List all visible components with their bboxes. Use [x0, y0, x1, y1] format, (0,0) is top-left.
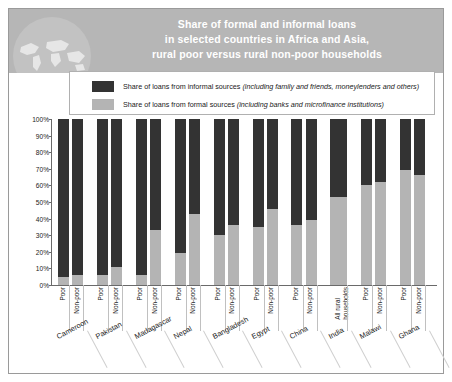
title-line-1: Share of formal and informal loans	[95, 17, 439, 32]
category-label: Non-poor	[73, 287, 80, 314]
bar-segment-formal	[150, 230, 161, 285]
y-axis-tick-mark	[49, 202, 52, 203]
plot-area: 0%10%20%30%40%50%60%70%80%90%100% PoorNo…	[9, 113, 445, 375]
category-label: Poor	[400, 287, 407, 301]
bar-segment-formal	[214, 235, 225, 285]
bar-china-non-poor	[306, 119, 317, 285]
bar-segment-formal	[111, 267, 122, 285]
bar-cameroon-poor	[58, 119, 69, 285]
world-map-icon	[13, 17, 91, 73]
y-axis-tick-mark	[49, 119, 52, 120]
y-axis-tick-label: 80%	[21, 149, 49, 156]
bar-segment-formal	[97, 275, 108, 285]
bar-nepal-non-poor	[189, 119, 200, 285]
bar-bangladesh-non-poor	[228, 119, 239, 285]
bar-segment-formal	[189, 214, 200, 285]
category-label: Non-poor	[112, 287, 119, 314]
category-label: Non-poor	[151, 287, 158, 314]
y-axis-tick-label: 90%	[21, 132, 49, 139]
y-axis-tick-label: 60%	[21, 182, 49, 189]
bar-malawi-poor	[361, 119, 372, 285]
title-line-3: rural poor versus rural non-poor househo…	[95, 47, 439, 62]
bar-segment-formal	[253, 227, 264, 285]
label-divider	[317, 285, 318, 331]
y-axis-tick-mark	[49, 152, 52, 153]
bar-series	[52, 119, 437, 285]
bar-segment-formal	[136, 275, 147, 285]
y-axis-tick-mark	[49, 252, 52, 253]
category-label: Poor	[214, 287, 221, 301]
label-divider	[122, 285, 123, 331]
legend-item-formal: Share of loans from formal sources (incl…	[92, 96, 434, 112]
legend-swatch-informal	[92, 81, 114, 92]
y-axis-tick-mark	[49, 268, 52, 269]
bar-egypt-non-poor	[267, 119, 278, 285]
category-label: Poor	[362, 287, 369, 301]
legend-label-formal: Share of loans from formal sources (incl…	[123, 100, 384, 109]
category-label: Non-poor	[376, 287, 383, 314]
category-label: Non-poor	[228, 287, 235, 314]
bar-egypt-poor	[253, 119, 264, 285]
y-axis-tick-mark	[49, 219, 52, 220]
bar-madagascar-non-poor	[150, 119, 161, 285]
category-label: Poor	[253, 287, 260, 301]
y-axis-tick-label: 100%	[21, 116, 49, 123]
bar-cameroon-non-poor	[72, 119, 83, 285]
y-axis-tick-label: 0%	[21, 282, 49, 289]
chart-figure: Share of formal and informal loans in se…	[8, 8, 444, 374]
bar-india-all-rural-households	[330, 119, 347, 285]
category-label: Non-poor	[415, 287, 422, 314]
bar-segment-formal	[267, 209, 278, 285]
y-axis-tick-label: 20%	[21, 248, 49, 255]
bar-segment-formal	[306, 220, 317, 285]
bar-ghana-non-poor	[414, 119, 425, 285]
y-axis-tick-mark	[49, 169, 52, 170]
bar-madagascar-poor	[136, 119, 147, 285]
chart-header: Share of formal and informal loans in se…	[9, 9, 443, 73]
bar-pakistan-poor	[97, 119, 108, 285]
chart-legend: Share of loans from informal sources (in…	[69, 71, 435, 115]
bar-segment-formal	[228, 225, 239, 285]
country-labels: CameroonPakistanMadagascarNepalBanglades…	[51, 331, 437, 375]
category-label: Non-poor	[267, 287, 274, 314]
y-axis-tick-mark	[49, 185, 52, 186]
bar-segment-formal	[291, 225, 302, 285]
y-axis-tick-label: 10%	[21, 265, 49, 272]
bar-segment-formal	[375, 182, 386, 285]
label-divider	[425, 285, 426, 331]
legend-swatch-formal	[92, 99, 114, 110]
category-label: Non-poor	[306, 287, 313, 314]
label-divider	[278, 285, 279, 331]
category-label: Poor	[292, 287, 299, 301]
y-axis: 0%10%20%30%40%50%60%70%80%90%100%	[21, 119, 49, 285]
category-label: Non-poor	[189, 287, 196, 314]
y-axis-tick-label: 50%	[21, 199, 49, 206]
title-line-2: in selected countries in Africa and Asia…	[95, 32, 439, 47]
bar-segment-formal	[58, 277, 69, 285]
legend-label-informal: Share of loans from informal sources (in…	[123, 82, 419, 91]
bar-nepal-poor	[175, 119, 186, 285]
category-label: Poor	[136, 287, 143, 301]
label-divider	[347, 285, 348, 331]
bar-pakistan-non-poor	[111, 119, 122, 285]
bar-segment-formal	[175, 253, 186, 285]
plot-canvas	[51, 119, 437, 286]
category-label: Poor	[59, 287, 66, 301]
y-axis-tick-mark	[49, 136, 52, 137]
y-axis-tick-label: 70%	[21, 165, 49, 172]
bar-segment-formal	[400, 170, 411, 285]
category-label: Poor	[97, 287, 104, 301]
y-axis-tick-label: 40%	[21, 215, 49, 222]
bar-ghana-poor	[400, 119, 411, 285]
bar-segment-formal	[72, 275, 83, 285]
bar-segment-formal	[330, 197, 347, 285]
bar-malawi-non-poor	[375, 119, 386, 285]
label-divider	[200, 285, 201, 331]
y-axis-tick-label: 30%	[21, 232, 49, 239]
bar-segment-formal	[361, 185, 372, 285]
legend-item-informal: Share of loans from informal sources (in…	[92, 78, 434, 94]
bar-china-poor	[291, 119, 302, 285]
bar-segment-formal	[414, 175, 425, 285]
category-label: Poor	[175, 287, 182, 301]
country-divider	[429, 331, 450, 369]
